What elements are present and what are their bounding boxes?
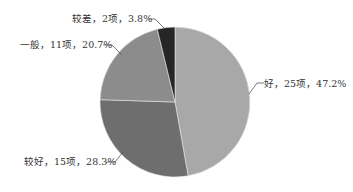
- label-fairly-good: 较好，15项，28.3%: [24, 156, 116, 167]
- leader-line-good: [249, 83, 264, 94]
- pie-slices: [100, 27, 250, 177]
- label-poor: 较差，2项，3.8%: [72, 13, 152, 24]
- pie-slice-good: [175, 27, 250, 176]
- label-good: 好，25项，47.2%: [264, 78, 346, 89]
- label-average: 一般，11项，20.7%: [20, 39, 112, 50]
